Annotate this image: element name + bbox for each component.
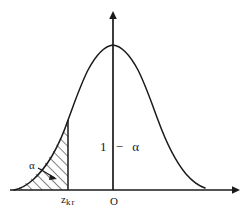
- normal-distribution-figure: 1 − α α zkr O: [0, 0, 250, 220]
- figure-canvas: [0, 0, 250, 220]
- y-axis-arrowhead: [109, 11, 117, 19]
- confidence-level-label: 1 − α: [100, 140, 142, 153]
- x-axis-arrowhead: [232, 186, 240, 194]
- critical-value-label: zkr: [61, 194, 75, 205]
- critical-value-subscript: kr: [66, 197, 76, 207]
- tail-hatch-fill: [14, 120, 68, 190]
- alpha-region-label: α: [29, 160, 35, 171]
- origin-label: O: [110, 196, 118, 207]
- shaded-rejection-region: [14, 120, 68, 190]
